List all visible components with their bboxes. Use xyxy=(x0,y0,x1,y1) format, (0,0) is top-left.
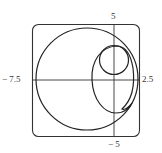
polar-plot xyxy=(0,0,162,153)
large-circle-curve xyxy=(36,28,138,130)
y-max-tick-label: 5 xyxy=(111,12,116,21)
x-max-tick-label: 2.5 xyxy=(142,75,153,84)
viewing-window-frame xyxy=(33,25,140,137)
y-min-tick-label: − 5 xyxy=(108,140,120,149)
x-min-tick-label: − 7.5 xyxy=(2,75,21,84)
